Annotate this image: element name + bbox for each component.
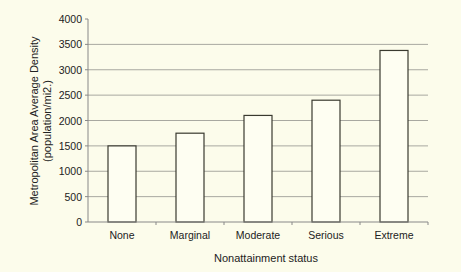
bar-moderate [244, 115, 272, 222]
x-tick-label: Serious [308, 229, 344, 241]
y-tick-label: 3500 [59, 38, 83, 50]
y-tick-label: 500 [64, 191, 82, 203]
svg-text:(population/mi2.): (population/mi2.) [41, 80, 53, 162]
y-axis-title: Metropolitan Area Average Density (popul… [28, 36, 53, 206]
bar-serious [312, 100, 340, 222]
x-tick-label: Moderate [236, 229, 281, 241]
x-axis-title: Nonattainment status [214, 252, 318, 264]
y-tick-label: 3000 [59, 64, 83, 76]
x-tick-label: Marginal [170, 229, 210, 241]
y-tick-label: 1000 [59, 165, 83, 177]
y-tick-label: 2500 [59, 89, 83, 101]
bar-marginal [176, 133, 204, 222]
bar-extreme [380, 50, 408, 222]
y-tick-label: 4000 [59, 13, 83, 25]
y-tick-label: 0 [76, 216, 82, 228]
x-tick-label: None [109, 229, 134, 241]
y-tick-label: 1500 [59, 140, 83, 152]
y-axis: 05001000150020002500300035004000 [59, 13, 88, 228]
x-tick-label: Extreme [374, 229, 413, 241]
y-tick-label: 2000 [59, 115, 83, 127]
bar-chart: 05001000150020002500300035004000 NoneMar… [0, 0, 461, 272]
bar-none [108, 146, 136, 222]
svg-text:Metropolitan Area Average Dens: Metropolitan Area Average Density [28, 36, 40, 206]
x-axis: NoneMarginalModerateSeriousExtreme [88, 222, 428, 241]
